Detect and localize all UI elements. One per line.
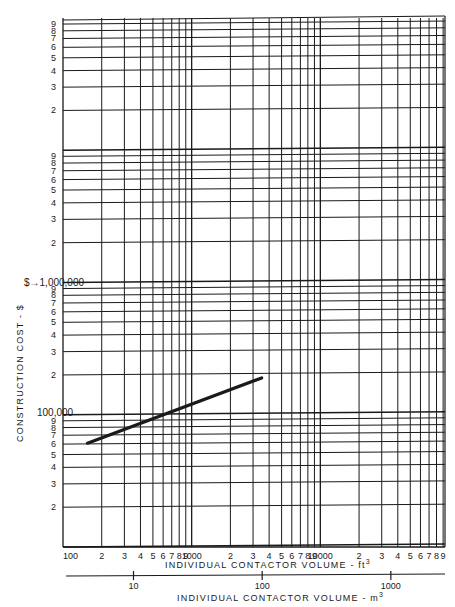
y-tick-label: 5	[51, 450, 56, 460]
y-axis-tick-labels: 23456789234567892345678923456789	[51, 19, 56, 512]
log-grid	[63, 16, 445, 547]
x-tick-label: 4	[138, 551, 143, 561]
y-tick-label: 6	[51, 439, 56, 449]
cost-vs-volume-chart: 23456789234567892345678923456789 1002345…	[0, 0, 455, 607]
x-tick-label: 100	[63, 551, 78, 561]
y-label-million: $→1,000,000	[24, 277, 84, 288]
x-axis-title-m: INDIVIDUAL CONTACTOR VOLUME - m3	[177, 591, 384, 603]
x-tick-label: 2	[99, 551, 104, 561]
y-tick-label: 3	[51, 82, 56, 92]
y-tick-label: 6	[51, 307, 56, 317]
y-tick-label: 4	[51, 198, 56, 208]
y-tick-label: 5	[51, 317, 56, 327]
dollar-arrow-icon: $→	[24, 277, 40, 288]
x-tick-label: 6	[418, 551, 423, 561]
series-line	[87, 378, 261, 443]
y-tick-label: 6	[51, 175, 56, 185]
x-tick-label: 3	[122, 551, 127, 561]
y-tick-label: 6	[51, 42, 56, 52]
y-tick-label: 2	[51, 370, 56, 380]
y-tick-label: 9	[51, 151, 56, 161]
m3-tick-label: 10	[128, 581, 138, 591]
m3-tick-label: 100	[255, 581, 270, 591]
y-tick-label: 3	[51, 347, 56, 357]
y-label-hundred-thousand: 100,000	[37, 407, 74, 418]
y-tick-label: 5	[51, 53, 56, 63]
cost-curve	[87, 378, 261, 443]
x-tick-label: 5	[150, 551, 155, 561]
x-tick-label: 5	[408, 551, 413, 561]
y-axis-title: CONSTRUCTION COST - $	[15, 304, 25, 442]
y-tick-label: 9	[51, 19, 56, 29]
y-tick-label: 4	[51, 330, 56, 340]
m3-axis-line	[66, 574, 445, 576]
x-tick-label: 8	[434, 551, 439, 561]
y-tick-label: 4	[51, 66, 56, 76]
x-tick-label: 4	[395, 551, 400, 561]
y-tick-label: 2	[51, 502, 56, 512]
x-tick-label: 7	[427, 551, 432, 561]
x-tick-label: 3	[379, 551, 384, 561]
x-axis-title-ft: INDIVIDUAL CONTACTOR VOLUME - ft3	[165, 558, 371, 570]
y-tick-label: 5	[51, 185, 56, 195]
m3-tick-label: 1000	[381, 581, 401, 591]
y-tick-label: 2	[51, 105, 56, 115]
y-tick-label: 3	[51, 214, 56, 224]
y-tick-label: 4	[51, 462, 56, 472]
x-tick-label: 9	[441, 551, 446, 561]
y-tick-label: 3	[51, 479, 56, 489]
y-tick-label: 2	[51, 238, 56, 248]
